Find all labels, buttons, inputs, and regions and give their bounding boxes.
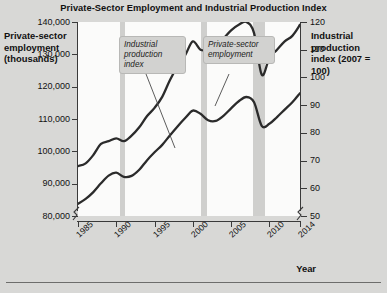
y-axis-left-tick-label: 110,000 — [24, 114, 70, 124]
x-axis-line — [77, 221, 301, 222]
y-axis-right-tick — [301, 50, 307, 51]
y-axis-right-tick — [301, 105, 307, 106]
page-title: Private-Sector Employment and Industrial… — [0, 3, 387, 13]
y-axis-right-tick-label: 100 — [310, 72, 340, 82]
y-axis-left-tick-label: 80,000 — [24, 211, 70, 221]
private-sector-employment-line — [78, 93, 300, 204]
y-axis-right-tick-label: 70 — [310, 155, 340, 165]
y-axis-left-tick — [72, 87, 78, 88]
y-axis-right-tick-label: 50 — [310, 211, 340, 221]
callout-private-sector-employment: Private-sector employment — [203, 36, 275, 64]
y-axis-left-line — [77, 22, 78, 211]
chart-figure: Private-Sector Employment and Industrial… — [0, 0, 387, 293]
y-axis-right-tick — [301, 77, 307, 78]
y-axis-left-tick — [72, 54, 78, 55]
y-axis-right-tick-label: 60 — [310, 183, 340, 193]
y-axis-left-break-icon — [72, 205, 84, 223]
left-axis-title: Private-sector employment (thousands) — [4, 30, 76, 65]
y-axis-left-tick — [72, 184, 78, 185]
y-axis-left-tick-label: 130,000 — [24, 49, 70, 59]
y-axis-left-tick — [72, 216, 78, 217]
y-axis-right-tick — [301, 133, 307, 134]
y-axis-right-tick-label: 80 — [310, 127, 340, 137]
y-axis-left-tick — [72, 151, 78, 152]
y-axis-right-tick — [301, 161, 307, 162]
y-axis-right-tick-label: 110 — [310, 44, 340, 54]
y-axis-right-break-icon — [296, 205, 308, 223]
y-axis-left-tick — [72, 22, 78, 23]
y-axis-left-tick-label: 120,000 — [24, 81, 70, 91]
footer-divider — [6, 282, 381, 283]
y-axis-left-tick-label: 90,000 — [24, 178, 70, 188]
y-axis-left-tick-label: 140,000 — [24, 17, 70, 27]
callout-industrial-production-index: Industrial production index — [119, 36, 186, 74]
y-axis-right-tick-label: 90 — [310, 100, 340, 110]
x-axis-title: Year — [0, 263, 316, 274]
y-axis-left-tick-label: 100,000 — [24, 146, 70, 156]
y-axis-right-tick — [301, 216, 307, 217]
y-axis-left-tick — [72, 119, 78, 120]
y-axis-right-tick-label: 120 — [310, 17, 340, 27]
y-axis-right-tick — [301, 188, 307, 189]
y-axis-right-tick — [301, 22, 307, 23]
